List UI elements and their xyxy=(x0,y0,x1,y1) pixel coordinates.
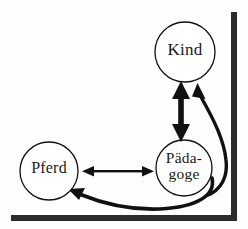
diagram-canvas xyxy=(0,0,248,229)
edge-kind-paedagoge-double-arrow xyxy=(172,81,190,142)
node-circle-paedagoge xyxy=(156,140,212,196)
node-circle-kind xyxy=(155,22,215,82)
frame-bottom-bar xyxy=(11,215,237,221)
edge-pferd-paedagoge-double-arrow xyxy=(82,166,154,176)
node-circle-pferd xyxy=(20,142,78,200)
frame-right-bar xyxy=(231,12,237,219)
diagram-figure: Kind Päda- goge Pferd xyxy=(0,0,248,229)
